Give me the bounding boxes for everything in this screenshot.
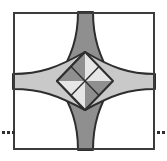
tiling-figure — [0, 0, 167, 161]
ellipsis-right-dot-2 — [162, 131, 165, 134]
ellipsis-left — [2, 131, 15, 134]
ellipsis-left-dot-3 — [12, 131, 15, 134]
ellipsis-left-dot-2 — [7, 131, 10, 134]
ellipsis-left-dot-1 — [2, 131, 5, 134]
ellipsis-right-dot-1 — [157, 131, 160, 134]
